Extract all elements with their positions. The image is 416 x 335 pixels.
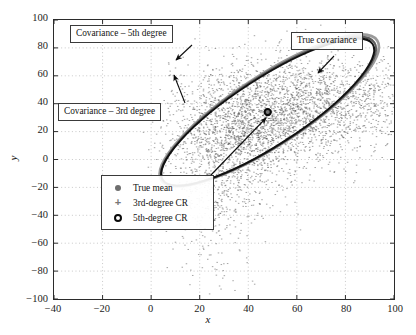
annotation-covariance-3rd-degree: Covariance – 3rd degree (58, 103, 161, 121)
y-tick-label: 80 (38, 41, 49, 52)
legend-label-5th-degree-cr: 5th-degree CR (130, 213, 187, 223)
annotation-true-covariance: True covariance (291, 32, 363, 50)
y-tick-label: 0 (43, 154, 48, 165)
x-axis-title: x (0, 313, 416, 325)
legend: True mean + 3rd-degree CR 5th-degree CR (101, 175, 214, 230)
legend-label-true-mean: True mean (130, 183, 173, 193)
y-axis-title: y (7, 156, 19, 161)
y-tick-label: −20 (32, 182, 48, 193)
plus-marker-icon: + (106, 196, 130, 210)
y-tick-label: 20 (38, 125, 49, 136)
annotation-covariance-5th-degree: Covariance – 5th degree (70, 25, 173, 43)
legend-item-true-mean: True mean (106, 180, 208, 195)
y-tick-label: 40 (38, 97, 49, 108)
figure-canvas: −100−80−60−40−20020406080100 −40−2002040… (0, 0, 416, 335)
y-tick-label: −60 (32, 238, 48, 249)
legend-label-3rd-degree-cr: 3rd-degree CR (130, 198, 188, 208)
y-tick-label: 60 (38, 69, 49, 80)
open-circle-marker-icon (106, 211, 130, 225)
y-tick-label: 100 (32, 13, 48, 24)
legend-item-5th-degree-cr: 5th-degree CR (106, 210, 208, 225)
y-tick-label: −80 (32, 266, 48, 277)
annotation-arrows-layer (0, 0, 416, 335)
y-tick-label: −40 (32, 210, 48, 221)
true-mean-marker-icon (106, 181, 130, 195)
legend-item-3rd-degree-cr: + 3rd-degree CR (106, 195, 208, 210)
